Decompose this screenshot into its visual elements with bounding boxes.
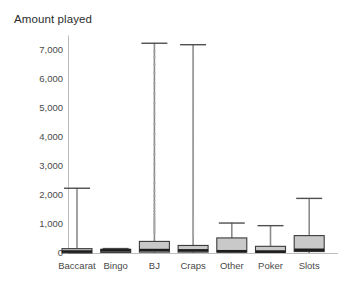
outlier-point (153, 72, 155, 74)
x-axis-ticks: BaccaratBingoBJCrapsOtherPokerSlots (58, 260, 320, 271)
box-plot-item[interactable] (256, 225, 286, 253)
outlier-point (192, 213, 194, 215)
outlier-point (153, 92, 155, 94)
outlier-point (153, 216, 155, 218)
outlier-point (192, 190, 194, 192)
y-axis-tick-label: 1,000 (39, 218, 63, 229)
outlier-point (192, 82, 194, 84)
outlier-point (153, 163, 155, 165)
outlier-point (153, 174, 155, 176)
outlier-point (192, 92, 194, 94)
outlier-point (192, 196, 194, 198)
plot-area: 01,0002,0003,0004,0005,0006,0007,000 Bac… (0, 0, 346, 300)
outlier-point (153, 213, 155, 215)
outlier-point (153, 225, 155, 227)
outlier-point (192, 133, 194, 135)
outlier-point (192, 113, 194, 115)
box-plot-item[interactable] (101, 248, 131, 253)
outlier-point (153, 204, 155, 206)
outlier-point (192, 63, 194, 65)
y-axis-tick-label: 7,000 (39, 44, 63, 55)
outlier-point (192, 163, 194, 165)
outlier-point (192, 55, 194, 57)
outlier-point (153, 210, 155, 212)
outlier-point (192, 50, 194, 52)
box-plot-item[interactable] (294, 198, 324, 253)
x-axis-tick-label: Baccarat (58, 260, 96, 271)
x-axis-tick-label: BJ (149, 260, 160, 271)
outlier-point (192, 227, 194, 229)
outlier-point (192, 205, 194, 207)
y-axis-tick-label: 3,000 (39, 160, 63, 171)
box-series (62, 43, 324, 253)
outlier-point (192, 174, 194, 176)
y-axis-ticks: 01,0002,0003,0004,0005,0006,0007,000 (39, 44, 63, 258)
outlier-point (153, 143, 155, 145)
outlier-point (192, 103, 194, 105)
outlier-point (192, 143, 194, 145)
outlier-point (192, 229, 194, 231)
y-axis-tick-label: 5,000 (39, 102, 63, 113)
outlier-point (192, 153, 194, 155)
outlier-point (192, 231, 194, 233)
x-axis-tick-label: Slots (299, 260, 320, 271)
y-axis-tick-label: 4,000 (39, 131, 63, 142)
y-axis-tick-label: 2,000 (39, 189, 63, 200)
axis-lines (68, 36, 338, 254)
outlier-point (153, 50, 155, 52)
outlier-point (192, 201, 194, 203)
outlier-point (192, 219, 194, 221)
box-plot-item[interactable] (139, 43, 169, 253)
outlier-point (192, 210, 194, 212)
x-axis-tick-label: Other (220, 260, 244, 271)
outlier-point (153, 153, 155, 155)
outlier-point (153, 133, 155, 135)
outlier-point (153, 82, 155, 84)
outlier-point (153, 195, 155, 197)
outlier-point (192, 216, 194, 218)
x-axis-tick-label: Craps (180, 260, 206, 271)
outlier-point (153, 221, 155, 223)
box-plot-chart: Amount played 01,0002,0003,0004,0005,000… (0, 0, 346, 300)
outlier-point (192, 222, 194, 224)
outlier-point (153, 56, 155, 58)
outlier-point (153, 182, 155, 184)
outlier-point (153, 207, 155, 209)
y-axis-tick-label: 6,000 (39, 73, 63, 84)
outlier-point (153, 123, 155, 125)
outlier-point (153, 223, 155, 225)
outlier-point (153, 113, 155, 115)
x-axis-tick-label: Poker (258, 260, 283, 271)
box-plot-item[interactable] (178, 44, 208, 253)
outlier-point (192, 225, 194, 227)
outlier-point (153, 63, 155, 65)
outlier-point (153, 103, 155, 105)
box-plot-item[interactable] (62, 188, 92, 253)
outlier-point (192, 123, 194, 125)
box-plot-item[interactable] (217, 223, 247, 253)
outlier-point (192, 72, 194, 74)
outlier-point (153, 219, 155, 221)
x-axis-tick-label: Bingo (104, 260, 128, 271)
outlier-point (192, 182, 194, 184)
outlier-point (153, 190, 155, 192)
outlier-point (153, 200, 155, 202)
